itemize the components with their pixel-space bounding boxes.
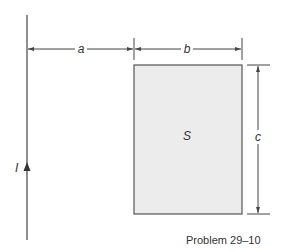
caption: Problem 29–10 bbox=[186, 234, 261, 246]
dim-a-label: a bbox=[78, 42, 85, 56]
wire-label: I bbox=[15, 161, 19, 175]
dim-c-label: c bbox=[255, 130, 261, 144]
dim-b-label: b bbox=[184, 42, 191, 56]
current-arrow-icon bbox=[24, 162, 31, 171]
surface-label: S bbox=[183, 129, 191, 143]
diagram: I a b S c Problem 29–10 bbox=[0, 0, 283, 251]
